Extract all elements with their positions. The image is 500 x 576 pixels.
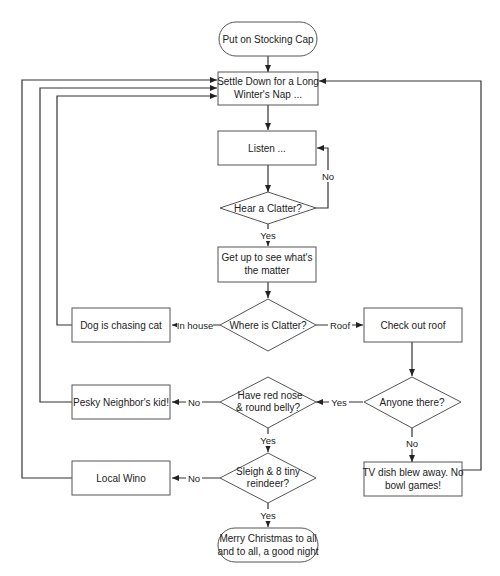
label-where-inhouse: In house (177, 320, 213, 331)
node-start[interactable]: Put on Stocking Cap (219, 22, 317, 56)
edge-neighbor-nap (40, 88, 217, 402)
node-tvdish-label-2: bowl games! (385, 480, 441, 491)
node-tvdish[interactable]: TV dish blew away. No bowl games! (363, 462, 464, 496)
node-dog[interactable]: Dog is chasing cat (72, 308, 170, 342)
label-rednose-yes: Yes (260, 435, 276, 446)
node-sleigh-label-1: Sleigh & 8 tiny (236, 466, 300, 477)
node-listen[interactable]: Listen ... (218, 131, 316, 165)
node-hear-label: Hear a Clatter? (234, 203, 302, 214)
edges (22, 56, 481, 527)
label-hear-no: No (322, 171, 334, 182)
node-nap[interactable]: Settle Down for a Long Winter's Nap ... (217, 72, 319, 105)
node-anyone[interactable]: Anyone there? (364, 377, 461, 428)
node-wino[interactable]: Local Wino (72, 461, 170, 495)
node-roof[interactable]: Check out roof (364, 308, 462, 342)
node-start-label: Put on Stocking Cap (222, 34, 314, 45)
node-rednose-label-1: Have red nose (237, 390, 302, 401)
node-roof-label: Check out roof (380, 320, 445, 331)
node-getup-label-2: the matter (244, 265, 290, 276)
node-neighbor-label: Pesky Neighbor's kid! (73, 397, 169, 408)
node-end-label-1: Merry Christmas to all (219, 533, 316, 544)
label-anyone-no: No (406, 438, 418, 449)
node-tvdish-label-1: TV dish blew away. No (363, 467, 464, 478)
node-getup[interactable]: Get up to see what's the matter (218, 247, 316, 282)
label-anyone-yes: Yes (331, 397, 347, 408)
node-where-label: Where is Clatter? (229, 320, 307, 331)
label-hear-yes: Yes (260, 230, 276, 241)
edge-dog-nap (57, 96, 217, 325)
node-rednose[interactable]: Have red nose & round belly? (220, 377, 316, 428)
node-listen-label: Listen ... (248, 143, 286, 154)
node-anyone-label: Anyone there? (379, 397, 444, 408)
node-sleigh-label-2: reindeer? (247, 478, 290, 489)
node-end-label-2: and to all, a good night (217, 546, 318, 557)
node-hear[interactable]: Hear a Clatter? (220, 192, 316, 224)
label-rednose-no: No (188, 397, 200, 408)
node-getup-label-1: Get up to see what's (222, 252, 313, 263)
flowchart-canvas: No Yes In house Roof Yes No No Yes No Ye… (0, 0, 500, 576)
node-wino-label: Local Wino (96, 473, 146, 484)
node-neighbor[interactable]: Pesky Neighbor's kid! (72, 385, 170, 419)
label-sleigh-yes: Yes (260, 510, 276, 521)
node-nap-label-2: Winter's Nap ... (234, 89, 302, 100)
node-where[interactable]: Where is Clatter? (220, 299, 316, 351)
node-nap-label-1: Settle Down for a Long (217, 76, 319, 87)
node-rednose-label-2: & round belly? (236, 402, 300, 413)
node-sleigh[interactable]: Sleigh & 8 tiny reindeer? (220, 453, 316, 503)
label-sleigh-no: No (188, 473, 200, 484)
node-end[interactable]: Merry Christmas to all and to all, a goo… (217, 528, 318, 562)
label-where-roof: Roof (330, 320, 350, 331)
node-dog-label: Dog is chasing cat (80, 320, 162, 331)
